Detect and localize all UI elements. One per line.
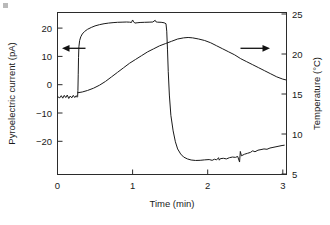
ytick-label-20: 20 — [41, 23, 52, 34]
y2tick-label-15: 15 — [292, 89, 303, 100]
plot-frame — [58, 13, 287, 175]
xtick-label-0: 0 — [55, 180, 60, 191]
pyroelectric-current-temperature-chart: 20 10 0 −10 −20 25 20 15 10 5 0 1 2 3 Ti… — [0, 0, 330, 225]
y2tick-label-10: 10 — [292, 129, 303, 140]
y2-axis-title: Temperature (°C) — [311, 57, 322, 130]
x-axis-ticks — [58, 170, 283, 175]
ytick-label-neg10: −10 — [36, 108, 52, 119]
xtick-label-2: 2 — [205, 180, 210, 191]
ytick-label-neg20: −20 — [36, 136, 52, 147]
temperature-curve — [78, 37, 286, 92]
x-axis-title: Time (min) — [149, 198, 194, 209]
arrow-right-icon — [263, 45, 271, 52]
y2tick-label-25: 25 — [292, 9, 303, 20]
right-axis-ticks — [282, 14, 287, 174]
corner-crop-mark — [3, 3, 8, 8]
left-axis-arrow — [62, 45, 86, 52]
left-axis-ticks — [58, 28, 63, 141]
ytick-label-0: 0 — [47, 79, 52, 90]
xtick-label-3: 3 — [280, 180, 285, 191]
xtick-label-1: 1 — [130, 180, 135, 191]
y2tick-label-5: 5 — [292, 169, 297, 180]
right-axis-arrow — [241, 45, 271, 52]
y2tick-label-20: 20 — [292, 49, 303, 60]
chart-canvas: 20 10 0 −10 −20 25 20 15 10 5 0 1 2 3 Ti… — [0, 0, 330, 225]
y-axis-title: Pyroelectric current (pA) — [6, 42, 17, 144]
arrow-left-icon — [62, 45, 70, 52]
ytick-label-10: 10 — [41, 51, 52, 62]
